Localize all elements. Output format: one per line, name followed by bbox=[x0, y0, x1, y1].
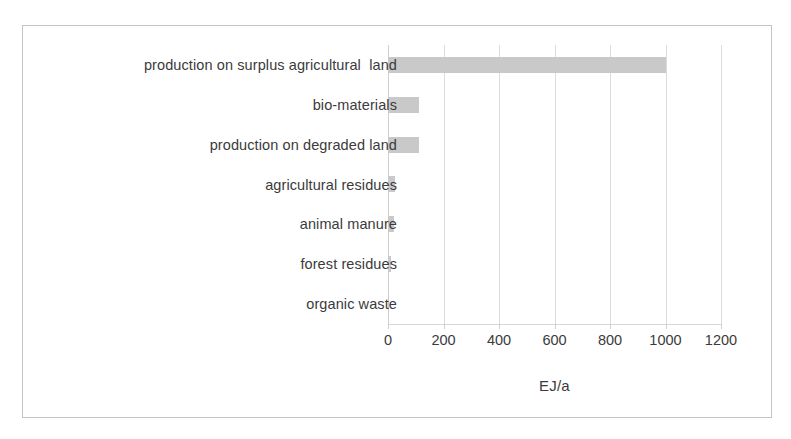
bar-chart: production on surplus agricultural landb… bbox=[23, 26, 771, 417]
x-tick-label: 600 bbox=[525, 332, 585, 348]
category-label: organic waste bbox=[37, 296, 397, 312]
bar-row bbox=[388, 85, 721, 125]
category-label: forest residues bbox=[37, 256, 397, 272]
bar-0[interactable] bbox=[388, 57, 666, 73]
tickmark-1200 bbox=[721, 324, 722, 329]
x-tick-label: 0 bbox=[358, 332, 418, 348]
category-label: animal manure bbox=[37, 216, 397, 232]
bar-row bbox=[388, 165, 721, 205]
tickmark-600 bbox=[555, 324, 556, 329]
gridline-1200 bbox=[721, 45, 722, 324]
x-axis-title: EJ/a bbox=[388, 377, 721, 394]
tickmark-400 bbox=[499, 324, 500, 329]
category-label: bio-materials bbox=[37, 97, 397, 113]
x-tick-label: 400 bbox=[469, 332, 529, 348]
tickmark-1000 bbox=[666, 324, 667, 329]
figure-frame: production on surplus agricultural landb… bbox=[22, 25, 772, 418]
category-label: production on degraded land bbox=[37, 137, 397, 153]
bar-row bbox=[388, 125, 721, 165]
bar-row bbox=[388, 284, 721, 324]
plot-area bbox=[388, 45, 721, 324]
x-tick-label: 1000 bbox=[636, 332, 696, 348]
category-label: production on surplus agricultural land bbox=[37, 57, 397, 73]
bar-row bbox=[388, 244, 721, 284]
bar-row bbox=[388, 204, 721, 244]
tickmark-0 bbox=[388, 324, 389, 329]
tickmark-200 bbox=[444, 324, 445, 329]
tickmark-800 bbox=[610, 324, 611, 329]
x-tick-label: 800 bbox=[580, 332, 640, 348]
x-tick-label: 1200 bbox=[691, 332, 751, 348]
x-tick-label: 200 bbox=[414, 332, 474, 348]
bar-row bbox=[388, 45, 721, 85]
category-label: agricultural residues bbox=[37, 177, 397, 193]
